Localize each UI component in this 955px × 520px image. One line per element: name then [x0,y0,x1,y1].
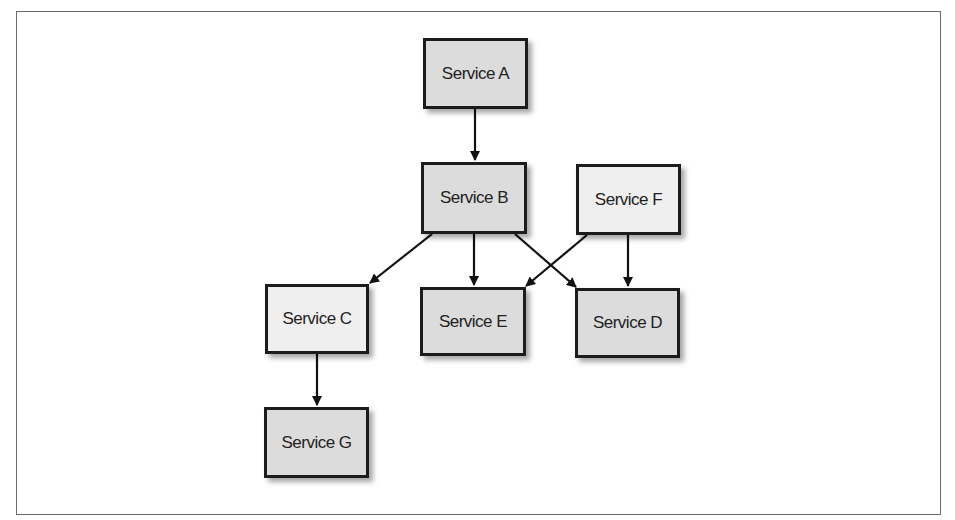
node-label: Service D [593,313,662,333]
node-service-a: Service A [423,38,528,109]
node-label: Service A [442,64,509,84]
edge-f-to-e [526,235,587,286]
node-service-d: Service D [575,288,680,358]
edge-b-to-d [515,234,576,287]
node-service-f: Service F [576,164,681,235]
node-service-c: Service C [265,284,369,354]
node-service-b: Service B [421,162,527,234]
node-label: Service B [440,188,508,208]
node-service-g: Service G [264,407,369,478]
node-label: Service G [281,433,351,453]
node-service-e: Service E [420,287,526,356]
edge-b-to-c [370,234,432,283]
node-label: Service C [282,309,351,329]
node-label: Service E [439,312,507,332]
node-label: Service F [595,190,662,210]
